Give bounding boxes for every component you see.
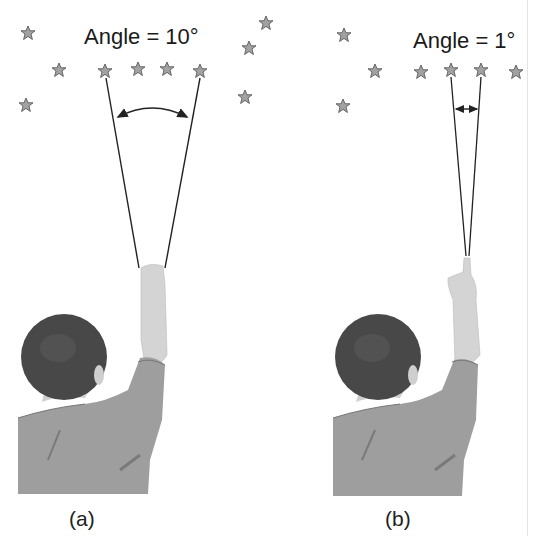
star-icon <box>336 99 350 113</box>
star-icon <box>474 63 488 77</box>
angle-label-b: Angle = 1° <box>413 28 515 54</box>
star-icon <box>21 26 35 40</box>
sight-line-right <box>469 77 481 256</box>
star-icon <box>509 65 523 79</box>
star-icon <box>444 63 458 77</box>
star-icon <box>368 64 382 78</box>
star-icon <box>98 64 112 78</box>
star-icon <box>238 90 252 104</box>
sight-line-left <box>451 77 466 256</box>
star-icon <box>19 98 33 112</box>
star-icon <box>160 62 174 76</box>
sight-line-left <box>106 78 139 268</box>
panel-b <box>333 28 523 496</box>
star-icon <box>259 16 273 30</box>
sight-line-right <box>165 78 200 268</box>
person-figure-b <box>333 258 480 496</box>
star-icon <box>337 28 351 42</box>
star-icon <box>414 65 428 79</box>
star-icon <box>131 62 145 76</box>
page-edge-divider <box>527 0 528 536</box>
curved-double-arrow-icon <box>118 108 187 117</box>
star-icon <box>193 64 207 78</box>
panel-caption-b: (b) <box>385 507 411 531</box>
person-figure-a <box>18 264 167 494</box>
star-icon <box>52 63 66 77</box>
panel-a <box>18 16 273 494</box>
panel-caption-a: (a) <box>69 507 95 531</box>
angle-label-a: Angle = 10° <box>84 24 199 50</box>
star-icon <box>242 41 256 55</box>
angular-measurement-diagram <box>0 0 540 536</box>
